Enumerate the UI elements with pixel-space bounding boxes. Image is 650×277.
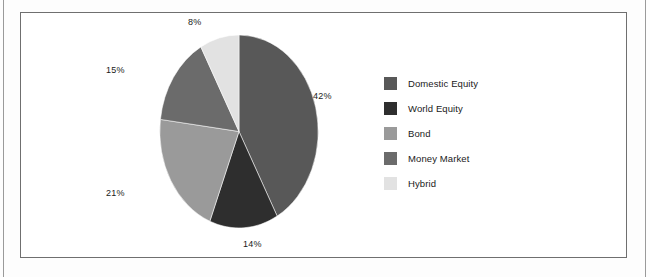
chart-frame: 42% 14% 21% 15% 8% Domestic Equity World… [20,12,627,258]
legend-swatch-icon [384,127,397,140]
legend-item-bond[interactable]: Bond [384,121,564,146]
legend-item-domestic-equity[interactable]: Domestic Equity [384,71,564,96]
pie-slice-group [160,35,318,228]
pie-value-label-domestic-equity: 42% [313,91,332,101]
legend-swatch-icon [384,177,397,190]
legend-item-label: Money Market [408,154,469,164]
legend-item-hybrid[interactable]: Hybrid [384,171,564,196]
pie-ellipse [159,34,319,229]
legend-item-money-market[interactable]: Money Market [384,146,564,171]
pie-chart [159,34,319,229]
page-edge-rule-right [645,0,646,277]
pie-value-label-world-equity: 14% [243,239,262,249]
legend-item-label: Domestic Equity [408,79,478,89]
legend-swatch-icon [384,152,397,165]
pie-value-label-money-market: 15% [106,65,125,75]
chart-legend: Domestic Equity World Equity Bond Money … [384,71,564,196]
legend-swatch-icon [384,77,397,90]
legend-swatch-icon [384,102,397,115]
page-edge-rule-left [3,0,4,277]
legend-item-label: World Equity [408,104,463,114]
pie-value-label-hybrid: 8% [188,17,201,27]
legend-item-world-equity[interactable]: World Equity [384,96,564,121]
legend-item-label: Bond [408,129,431,139]
pie-value-label-bond: 21% [106,188,125,198]
legend-item-label: Hybrid [408,179,436,189]
